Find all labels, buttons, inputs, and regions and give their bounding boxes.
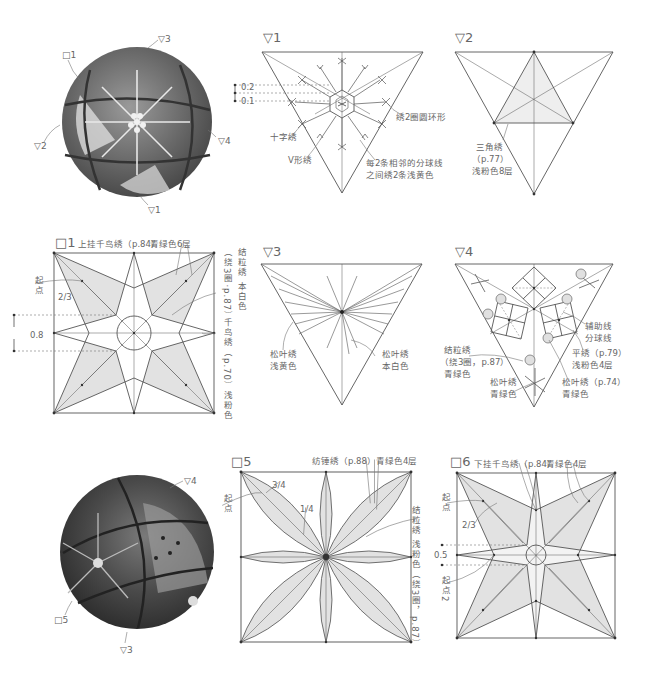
sq6-dim: 0.5 [434, 550, 448, 561]
tri4-pine-label-1: 松叶绣 [490, 377, 517, 388]
sq5-ratio-34: 3/4 [272, 480, 286, 491]
sq6-start-point: 起点 [440, 493, 450, 513]
tri1-label-ring: 绣2圈圆环形 [396, 112, 446, 123]
tri4-knot-label-1: 结粒绣 [444, 345, 471, 356]
ball-bottom-label-tri4: ▽4 [184, 476, 197, 486]
tri4-pine2-label-2: 青绿色 [562, 389, 589, 400]
tri1-label-cross: 十字绣 [270, 132, 297, 143]
ball-bottom-illustration [58, 473, 216, 631]
tri2-label-3: 浅粉色8层 [472, 166, 513, 177]
ball-top-label-sq1: □1 [62, 50, 76, 60]
sq5-diagram [241, 472, 411, 642]
tri1-label-between-1: 每2条相邻的分球线 [366, 158, 443, 169]
sq6-diagram [456, 473, 616, 638]
tri4-pine2-label-1: 松叶绣（p.74） [562, 377, 626, 388]
sq6-top-label: 下挂千鸟绣（p.84） [474, 459, 556, 470]
sq6-ratio: 2/3 [462, 520, 476, 531]
tri4-flat-label-2: 浅粉色4层 [572, 360, 613, 371]
sq6-title: □6 [450, 454, 471, 469]
tri4-knot-label-3: 青绿色 [444, 369, 471, 380]
tri4-title: ▽4 [455, 244, 473, 259]
tri4-flat-label-1: 平绣（p.79） [572, 348, 627, 359]
sq1-diagram [54, 253, 214, 413]
tri1-dim-02: 0.2 [241, 82, 255, 93]
sq5-start-point: 起点 [222, 494, 232, 514]
tri4-pine-label-2: 青绿色 [490, 389, 517, 400]
ball-top-label-tri2: ▽2 [34, 141, 47, 151]
tri3-left-label-2: 浅黄色 [270, 361, 297, 372]
tri3-diagram [261, 264, 431, 414]
sq5-ratio-14: 1/4 [300, 504, 314, 515]
sq1-right-label-2: （绕3圈·p.87） [222, 248, 232, 321]
tri2-diagram [453, 52, 623, 202]
sq1-start-point: 起点 [33, 276, 43, 296]
sq1-right-label-3: 千鸟绣（p.70）浅粉色 [222, 318, 232, 421]
temari-ball-bottom [58, 473, 216, 631]
tri1-label-between-2: 之间绣2条浅黄色 [366, 170, 434, 181]
ball-top-illustration [60, 45, 215, 200]
sq5-title: □5 [231, 454, 252, 469]
sq1-top-color: 青绿色6层 [150, 239, 191, 250]
ball-top-label-tri3: ▽3 [158, 34, 171, 44]
sq6-start-point-2: 起点2 [440, 576, 450, 602]
tri2-title: ▽2 [455, 30, 473, 45]
tri1-label-v: V形绣 [288, 155, 312, 166]
temari-ball-top [60, 45, 215, 200]
ball-bottom-label-sq5: □5 [54, 615, 68, 625]
tri1-dim-01: 0.1 [241, 96, 255, 107]
tri4-knot-label-2: （绕3圈，p.87） [440, 357, 509, 368]
sq1-right-label-1: 结粒绣 本白色 [236, 248, 246, 312]
tri4-aux-label-2: 分球线 [585, 333, 612, 344]
ball-bottom-label-tri3: ▽3 [120, 645, 133, 655]
ball-top-label-tri1: ▽1 [148, 205, 161, 215]
tri3-right-label-1: 松叶绣 [382, 349, 409, 360]
tri1-title: ▽1 [263, 30, 281, 45]
tri3-right-label-2: 本白色 [382, 361, 409, 372]
tri4-aux-label-1: 辅助线 [585, 321, 612, 332]
tri3-title: ▽3 [263, 244, 281, 259]
sq1-top-label: 上挂千鸟绣（p.84） [78, 239, 160, 250]
tri2-label-1: 三角绣 [476, 142, 503, 153]
ball-top-label-tri4: ▽4 [218, 136, 231, 146]
tri3-left-label-1: 松叶绣 [270, 349, 297, 360]
sq5-right-label: 结粒绣 浅粉色（绕3圈，p.87） [410, 506, 420, 649]
sq5-top-label: 纺锤绣（p.88）青绿色4层 [312, 456, 417, 467]
sq1-ratio: 2/3 [58, 292, 72, 303]
sq1-title: □1 [55, 235, 76, 250]
sq1-dim: 0.8 [30, 330, 44, 341]
tri2-label-2: （p.77） [472, 154, 509, 165]
